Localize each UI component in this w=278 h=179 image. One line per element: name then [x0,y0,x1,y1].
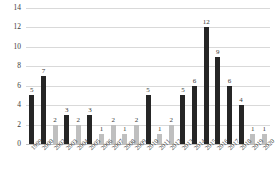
bar-column: 3 [84,8,96,144]
bar: 9 [215,57,220,144]
bar-column: 6 [189,8,201,144]
x-axis-tick-labels: 1999200020022003200420052006200720082009… [26,146,270,179]
x-axis-column: 2010 [142,146,154,179]
x-axis-column: 2002 [49,146,61,179]
bar-value-label: 2 [135,117,139,124]
bar: 5 [29,95,34,144]
bar-column: 5 [26,8,38,144]
bar-value-label: 2 [53,117,57,124]
bar-value-label: 12 [203,19,210,26]
bar: 5 [146,95,151,144]
bar-column: 7 [38,8,50,144]
y-axis-tick: 8 [17,63,21,71]
x-axis-column: 2013 [177,146,189,179]
x-axis-column: 2000 [38,146,50,179]
bar: 7 [41,76,46,144]
bar-chart: 02468101214 5723231212512561296411 19992… [0,0,278,179]
x-axis-column: 2019 [247,146,259,179]
bar: 4 [239,105,244,144]
y-axis-tick: 2 [17,121,21,129]
bar-value-label: 1 [158,126,162,133]
bar-value-label: 2 [77,117,81,124]
x-axis-column: 2018 [235,146,247,179]
bar: 6 [192,86,197,144]
x-axis-column: 2016 [212,146,224,179]
bar-value-label: 2 [170,117,174,124]
x-axis-column: 2017 [224,146,236,179]
plot-area: 5723231212512561296411 [26,8,270,144]
bar-column: 5 [177,8,189,144]
bar-column: 5 [142,8,154,144]
bar-column: 3 [61,8,73,144]
bar-column: 1 [259,8,271,144]
bar: 6 [227,86,232,144]
x-axis-column: 2007 [107,146,119,179]
x-axis-column: 1999 [26,146,38,179]
bar-column: 6 [224,8,236,144]
x-axis-column: 2003 [61,146,73,179]
bar-column: 9 [212,8,224,144]
bar-value-label: 4 [239,97,243,104]
bar-column: 2 [166,8,178,144]
x-axis-column: 2008 [119,146,131,179]
bar: 3 [87,115,92,144]
x-axis-column: 2004 [73,146,85,179]
x-axis-column: 2020 [259,146,271,179]
bar-column: 1 [154,8,166,144]
bar-column: 1 [119,8,131,144]
bar-value-label: 5 [30,87,34,94]
y-axis-tick-labels: 02468101214 [0,8,24,144]
bar-value-label: 1 [123,126,127,133]
x-axis-column: 2014 [189,146,201,179]
bar: 12 [204,27,209,144]
bar-column: 2 [49,8,61,144]
bar-value-label: 5 [181,87,185,94]
y-axis-tick: 14 [14,4,22,12]
y-axis-tick: 12 [14,24,22,32]
bar-column: 2 [73,8,85,144]
bar-column: 4 [235,8,247,144]
bar-value-label: 2 [111,117,115,124]
x-axis-column: 2015 [200,146,212,179]
y-axis-tick: 6 [17,82,21,90]
bar-column: 1 [96,8,108,144]
bar-value-label: 3 [88,107,92,114]
bar-value-label: 6 [228,78,232,85]
bar-value-label: 7 [42,68,46,75]
bar-value-label: 1 [251,126,255,133]
bar-value-label: 6 [193,78,197,85]
y-axis-tick: 10 [14,43,22,51]
bar-value-label: 5 [146,87,150,94]
x-axis-column: 2005 [84,146,96,179]
bar-value-label: 1 [263,126,267,133]
bar-value-label: 9 [216,49,220,56]
bar-column: 12 [200,8,212,144]
bar-column: 2 [107,8,119,144]
bar-column: 2 [131,8,143,144]
y-axis-tick: 0 [17,140,21,148]
y-axis-tick: 4 [17,101,21,109]
x-axis-column: 2009 [131,146,143,179]
x-axis-column: 2006 [96,146,108,179]
bar-column: 1 [247,8,259,144]
bar-value-label: 3 [65,107,69,114]
x-axis-column: 2012 [166,146,178,179]
bar: 5 [180,95,185,144]
bar-value-label: 1 [100,126,104,133]
bar-series: 5723231212512561296411 [26,8,270,144]
x-axis-column: 2011 [154,146,166,179]
